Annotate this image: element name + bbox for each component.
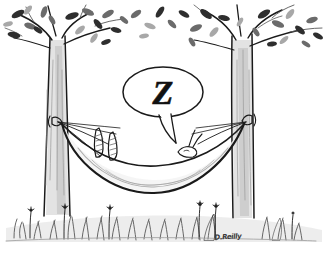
cartoon-illustration: Z (0, 0, 329, 264)
cartoon-page: Z (0, 0, 329, 264)
bubble-text: Z (152, 74, 174, 111)
artist-signature: D.Reilly (214, 232, 242, 241)
